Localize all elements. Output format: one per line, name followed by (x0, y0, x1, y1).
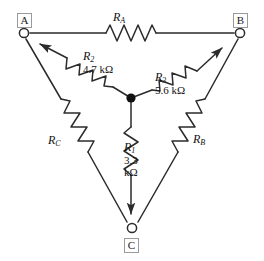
terminal-label-b: B (233, 13, 248, 28)
resistor-label-ra: RA (113, 8, 125, 25)
resistor-label-r1: R1 3.3 kΩ (124, 138, 138, 179)
arrow-r2-to-a (40, 44, 67, 58)
resistor-r3-value: 5.6 kΩ (155, 85, 185, 97)
circuit-schematic-svg (0, 0, 264, 261)
terminal-label-a-text: A (21, 14, 29, 26)
terminal-a-circle (19, 28, 28, 37)
resistor-ra-zigzag (106, 25, 156, 41)
resistor-label-rb: RB (193, 130, 205, 147)
terminal-label-c-text: C (128, 239, 135, 251)
arrow-r3-to-b (197, 48, 222, 71)
terminal-c-circle (127, 223, 136, 232)
resistor-r3-nameline: R3 (155, 68, 185, 85)
resistor-label-r2: R2 4.7 kΩ (83, 47, 113, 76)
resistor-r1-value-line2: kΩ (124, 167, 138, 179)
resistor-rc-zigzag (61, 99, 94, 152)
resistor-r2-value: 4.7 kΩ (83, 64, 113, 76)
terminal-b-circle (235, 28, 244, 37)
resistor-r1-nameline: R1 (124, 138, 138, 155)
resistor-rc-subscript: C (55, 139, 60, 148)
resistor-label-rc: RC (48, 131, 61, 148)
center-junction-dot (126, 93, 135, 102)
wire-rb-to-c (138, 152, 178, 222)
circuit-diagram-canvas: A B C RA RB RC R2 4.7 kΩ R3 5.6 kΩ R1 3.… (0, 0, 264, 261)
resistor-r2-nameline: R2 (83, 47, 113, 64)
wire-rc-to-c (88, 152, 127, 222)
resistor-rb-subscript: B (200, 138, 205, 147)
terminal-label-a: A (17, 13, 32, 28)
wire-a-to-rc (26, 39, 61, 99)
terminal-label-c: C (124, 238, 139, 253)
resistor-ra-subscript: A (120, 16, 125, 25)
terminal-label-b-text: B (237, 14, 244, 26)
resistor-label-r3: R3 5.6 kΩ (155, 68, 185, 97)
